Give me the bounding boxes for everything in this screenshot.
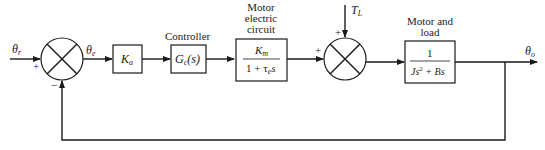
sum1-minus-sign: −: [51, 78, 58, 92]
theta-r-label: θr: [12, 42, 22, 57]
controller-title: Controller: [165, 30, 211, 42]
motor-load-numerator: 1: [427, 47, 433, 59]
motor-load-denominator: Js2 + Bs: [411, 65, 445, 77]
tl-label: TL: [351, 3, 363, 18]
summing-junction-2: [324, 38, 366, 80]
summing-junction-1: [41, 38, 83, 80]
sum1-plus-sign: +: [33, 60, 39, 72]
theta-e-label: θe: [86, 43, 96, 58]
motor-electric-denominator: 1 + τes: [246, 62, 275, 76]
motor-electric-title-3: circuit: [247, 23, 275, 35]
gc-label: Gc(s): [175, 52, 200, 67]
motor-load-title-2: load: [421, 26, 440, 38]
sum2-left-plus: +: [315, 44, 321, 56]
theta-o-label: θo: [525, 44, 535, 59]
block-diagram: θr + − θe Ka Controller Gc(s) Motor elec…: [0, 0, 545, 150]
sum2-top-plus: +: [335, 26, 341, 38]
